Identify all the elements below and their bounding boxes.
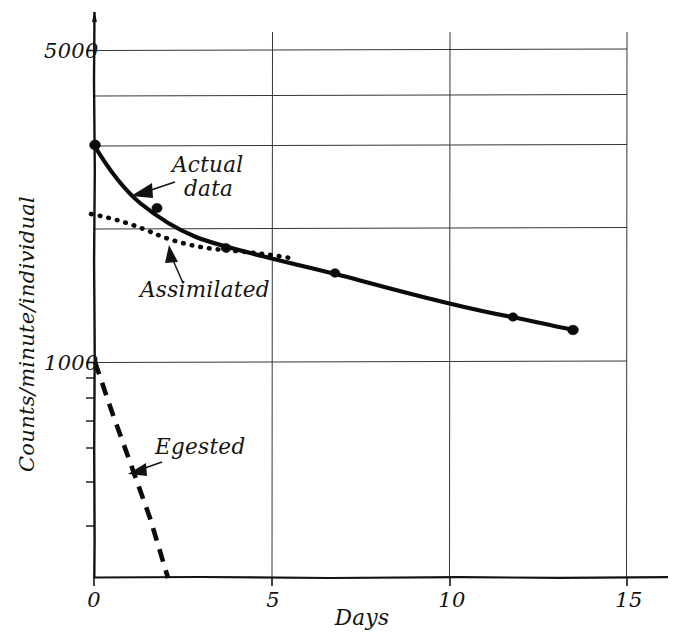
gridline-y-4000 bbox=[94, 95, 627, 97]
figure-root: 5000 1000 0 5 10 15 Days Counts/minute/i… bbox=[0, 0, 683, 635]
annotation-actual-data-line1: Actual bbox=[170, 152, 244, 177]
leader-arrowhead-assimilated bbox=[165, 245, 178, 263]
gridline-y-1000 bbox=[94, 361, 627, 363]
x-tick-label-0: 0 bbox=[87, 588, 101, 612]
y-axis-spine bbox=[94, 12, 95, 578]
x-tick-label-5: 5 bbox=[266, 588, 280, 612]
data-point bbox=[330, 269, 340, 278]
y-tick-label-1000: 1000 bbox=[44, 351, 99, 375]
series-line-egested bbox=[95, 362, 168, 578]
x-axis-spine bbox=[94, 577, 668, 578]
gridline-x-15 bbox=[627, 32, 628, 577]
gridline-y-5000 bbox=[94, 49, 627, 51]
chart-canvas: 5000 1000 0 5 10 15 Days Counts/minute/i… bbox=[0, 0, 683, 635]
y-axis-minor-ticks bbox=[86, 378, 94, 526]
data-point bbox=[90, 140, 101, 150]
x-tick-label-15: 15 bbox=[615, 588, 642, 612]
gridline-x-5 bbox=[272, 32, 273, 577]
y-axis-major-ticks bbox=[86, 51, 94, 363]
y-tick-label-5000: 5000 bbox=[44, 39, 99, 63]
x-axis-title: Days bbox=[334, 605, 389, 630]
annotation-actual-data-line2: data bbox=[184, 176, 233, 201]
data-point bbox=[152, 203, 162, 212]
data-point bbox=[508, 313, 518, 321]
leader-arrowhead-actual bbox=[131, 183, 153, 198]
horizontal-gridlines bbox=[94, 49, 627, 363]
annotation-assimilated: Assimilated bbox=[138, 277, 270, 302]
gridline-y-3000 bbox=[94, 145, 627, 147]
y-axis-title: Counts/minute/individual bbox=[15, 196, 39, 472]
data-point bbox=[221, 244, 231, 253]
x-tick-label-10: 10 bbox=[438, 588, 465, 612]
data-markers-actual bbox=[90, 140, 579, 335]
annotation-egested: Egested bbox=[154, 434, 245, 459]
leader-actual-data bbox=[131, 182, 175, 198]
data-point bbox=[568, 325, 579, 335]
y-axis-top-nib bbox=[92, 11, 97, 22]
